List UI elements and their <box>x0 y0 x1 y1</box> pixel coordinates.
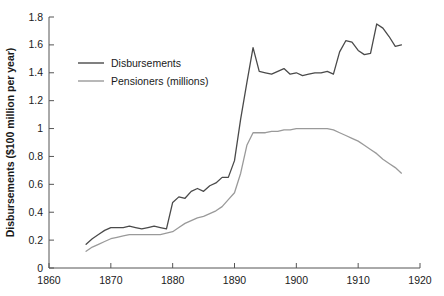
x-tick-label: 1920 <box>408 274 432 286</box>
y-tick-label: 0.8 <box>28 150 43 162</box>
y-axis-title: Disbursements ($100 million per year) <box>4 48 16 238</box>
y-tick-label: 1.4 <box>28 66 43 78</box>
chart-figure: 00.20.40.60.811.21.41.61.818601870188018… <box>0 0 444 296</box>
x-tick-label: 1890 <box>223 274 247 286</box>
x-tick-label: 1870 <box>99 274 123 286</box>
y-tick-label: 1.2 <box>28 94 43 106</box>
y-tick-label: 1 <box>37 122 43 134</box>
x-tick-label: 1860 <box>37 274 61 286</box>
x-tick-label: 1880 <box>161 274 185 286</box>
legend-label-1: Pensioners (millions) <box>111 75 208 87</box>
line-chart: 00.20.40.60.811.21.41.61.818601870188018… <box>0 0 444 296</box>
y-tick-label: 1.8 <box>28 11 43 23</box>
y-tick-label: 0.2 <box>28 234 43 246</box>
y-tick-label: 0.4 <box>28 206 43 218</box>
y-tick-label: 0.6 <box>28 178 43 190</box>
y-tick-label: 1.6 <box>28 38 43 50</box>
legend-label-0: Disbursements <box>111 57 181 69</box>
y-tick-label: 0 <box>37 262 43 274</box>
series-line-pensioners <box>86 129 401 252</box>
x-tick-label: 1900 <box>285 274 309 286</box>
x-tick-label: 1910 <box>346 274 370 286</box>
